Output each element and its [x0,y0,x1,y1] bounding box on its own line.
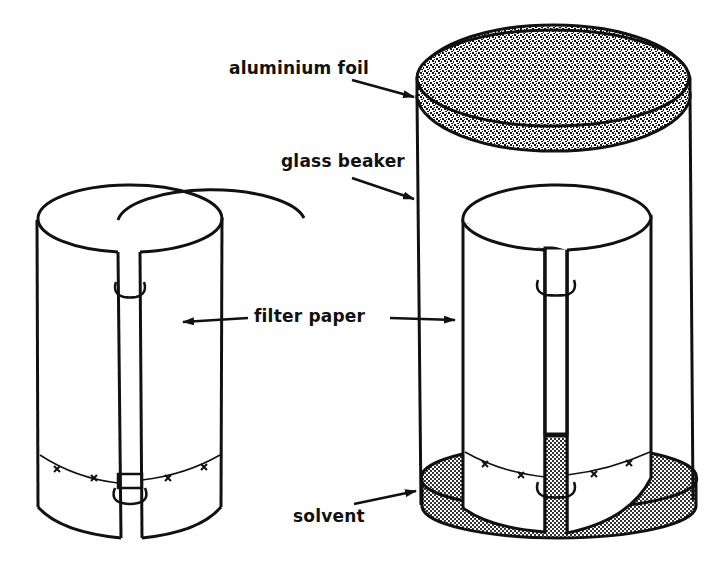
aluminium-foil-lid [417,25,690,151]
arrow-solvent [354,491,416,504]
left-filter-paper-cylinder [37,185,304,538]
arrow-aluminium-foil [352,80,414,97]
label-aluminium-foil: aluminium foil [229,58,369,78]
label-arrows [183,80,455,504]
left-sample-spots [54,464,207,481]
arrow-glass-beaker [352,178,414,199]
label-glass-beaker: glass beaker [281,151,405,171]
apparatus-diagram [0,0,724,582]
label-filter-paper: filter paper [254,306,365,326]
label-solvent: solvent [293,506,365,526]
left-baseline [40,455,220,488]
inner-filter-paper-cylinder [463,185,651,534]
arrow-filter-paper-right [390,318,455,320]
arrow-filter-paper-left [183,318,248,322]
